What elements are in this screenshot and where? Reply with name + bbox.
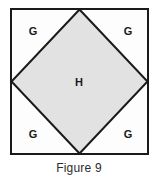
geometry-diagram: G G H G G xyxy=(0,0,158,162)
diagram-svg: G G H G G xyxy=(0,0,158,162)
figure-container: G G H G G Figure 9 xyxy=(0,0,158,187)
region-label-h-center: H xyxy=(75,76,83,88)
region-label-g-bottom-right: G xyxy=(124,128,133,140)
region-label-g-top-right: G xyxy=(124,25,133,37)
figure-caption: Figure 9 xyxy=(0,160,158,176)
region-label-g-bottom-left: G xyxy=(29,128,38,140)
region-label-g-top-left: G xyxy=(29,25,38,37)
